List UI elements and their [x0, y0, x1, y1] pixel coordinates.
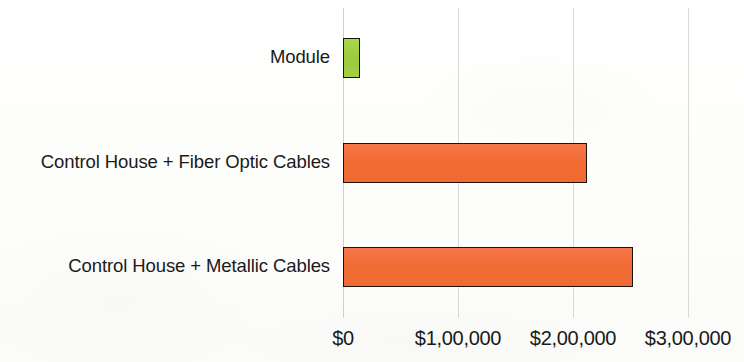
category-label-fiber-optic: Control House + Fiber Optic Cables [41, 152, 330, 172]
value-axis-labels: $0 $1,00,000 $2,00,000 $3,00,000 [0, 326, 744, 356]
bar-chart: Module Control House + Fiber Optic Cable… [0, 0, 744, 362]
tick-label-0: $0 [332, 326, 354, 350]
bar-metallic [343, 247, 633, 287]
bar-fiber-optic [343, 143, 587, 183]
gridline-300000 [688, 8, 689, 318]
category-label-module: Module [270, 47, 330, 67]
tick-label-100000: $1,00,000 [415, 326, 501, 350]
plot-area [343, 8, 688, 318]
category-axis-labels: Module Control House + Fiber Optic Cable… [0, 0, 330, 310]
category-label-metallic: Control House + Metallic Cables [68, 256, 330, 276]
tick-label-200000: $2,00,000 [530, 326, 616, 350]
tick-label-300000: $3,00,000 [645, 326, 731, 350]
bar-module [343, 38, 360, 78]
